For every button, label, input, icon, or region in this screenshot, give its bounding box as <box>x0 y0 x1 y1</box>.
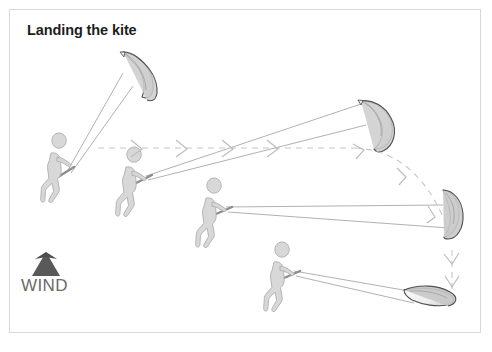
control-lines-step-1 <box>68 73 133 173</box>
rider-step-1[interactable] <box>41 133 71 203</box>
kite-step-1 <box>120 52 157 101</box>
step-3-group <box>196 178 463 248</box>
trajectory-chevron <box>131 140 459 287</box>
page-title: Landing the kite <box>27 22 137 38</box>
step-2-group <box>116 100 395 217</box>
kite-step-3 <box>443 190 463 239</box>
kite-landing-illustration <box>0 0 492 352</box>
control-lines-step-4 <box>294 271 414 303</box>
rider-step-2[interactable] <box>116 147 146 217</box>
wind-arrow-icon <box>29 251 63 277</box>
step-4-group <box>264 242 456 312</box>
control-lines-step-3 <box>226 205 449 228</box>
kite-step-4 <box>404 286 456 306</box>
wind-direction-label: WIND <box>21 276 68 296</box>
diagram-page: Landing the kite WIND <box>0 0 492 352</box>
